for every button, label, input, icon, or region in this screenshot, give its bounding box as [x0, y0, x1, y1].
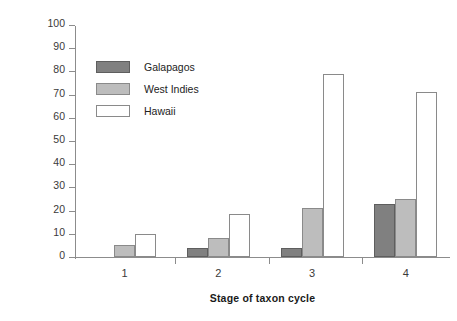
legend-label-galapagos: Galapagos: [144, 61, 195, 73]
x-axis-title: Stage of taxon cycle: [75, 292, 450, 304]
bar: [416, 92, 437, 257]
y-tick-label: 60: [53, 110, 65, 122]
x-tick-label: 1: [105, 267, 145, 279]
y-tick-label: 70: [53, 87, 65, 99]
y-tick: 40: [69, 164, 75, 165]
x-axis-line: [75, 257, 450, 258]
y-tick: 90: [69, 48, 75, 49]
bar: [395, 199, 416, 257]
x-tick-label: 3: [292, 267, 332, 279]
y-tick-label: 80: [53, 63, 65, 75]
legend-swatch-galapagos: [96, 61, 130, 73]
y-tick: 100: [69, 25, 75, 26]
legend-label-hawaii: Hawaii: [144, 105, 176, 117]
bar: [135, 234, 156, 257]
y-tick-label: 100: [47, 17, 65, 29]
x-tick-label: 4: [386, 267, 426, 279]
y-tick: 70: [69, 95, 75, 96]
y-tick-label: 90: [53, 40, 65, 52]
x-tick: [175, 258, 176, 264]
legend-item-hawaii: Hawaii: [96, 102, 246, 120]
y-tick: 20: [69, 211, 75, 212]
y-tick: 10: [69, 234, 75, 235]
y-tick-label: 10: [53, 226, 65, 238]
y-tick: 80: [69, 71, 75, 72]
legend-item-galapagos: Galapagos: [96, 58, 246, 76]
bar: [208, 238, 229, 257]
bar-chart: Percentage extinct or threatened 0102030…: [0, 0, 457, 321]
y-tick: 50: [69, 141, 75, 142]
y-tick-label: 50: [53, 133, 65, 145]
y-tick-label: 20: [53, 203, 65, 215]
legend-label-west-indies: West Indies: [144, 83, 199, 95]
legend-swatch-hawaii: [96, 105, 130, 117]
y-tick: 30: [69, 187, 75, 188]
bar: [187, 248, 208, 257]
bar: [374, 204, 395, 257]
bar: [229, 214, 250, 257]
y-tick: 0: [69, 257, 75, 258]
legend-item-west-indies: West Indies: [96, 80, 246, 98]
x-tick: [269, 258, 270, 264]
y-tick-label: 40: [53, 156, 65, 168]
y-tick-label: 30: [53, 179, 65, 191]
x-tick: [362, 258, 363, 264]
bar: [114, 245, 135, 257]
y-tick: 60: [69, 118, 75, 119]
y-tick-label: 0: [59, 249, 65, 261]
bar: [302, 208, 323, 257]
legend-swatch-west-indies: [96, 83, 130, 95]
bar: [281, 248, 302, 257]
legend: Galapagos West Indies Hawaii: [96, 58, 246, 124]
y-axis-line: [75, 26, 76, 259]
bar: [323, 74, 344, 257]
x-tick-label: 2: [198, 267, 238, 279]
